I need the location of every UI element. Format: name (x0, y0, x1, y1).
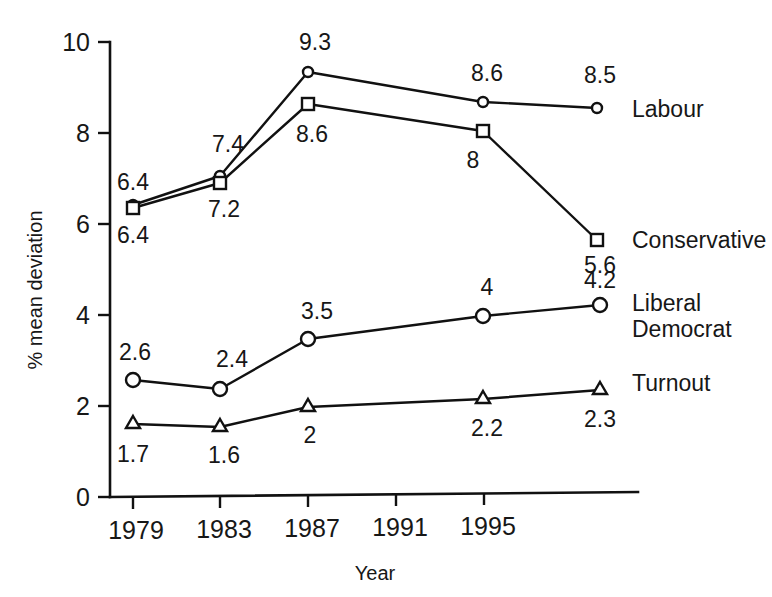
chart-container: 10 8 6 4 2 0 1979 1983 1987 1991 1995 Ye… (0, 0, 772, 597)
series-label-turnout: Turnout (632, 370, 711, 396)
conservative-marker-1979 (127, 202, 139, 214)
y-tick-labels: 10 8 6 4 2 0 (62, 28, 90, 511)
turnout-value-1979: 1.7 (117, 441, 149, 467)
labour-value-1997: 8.5 (584, 62, 616, 88)
conservative-value-1979: 6.4 (117, 222, 149, 248)
conservative-value-1987: 8.6 (296, 121, 328, 147)
x-tick-label-1979: 1979 (108, 516, 164, 544)
series-label-liberal-democrat-line1: Liberal (632, 290, 701, 316)
series-liberal-democrat: 2.6 2.4 3.5 4 4.2 (119, 267, 616, 396)
liberal-democrat-line (133, 305, 600, 389)
series-label-labour: Labour (632, 96, 704, 122)
liberal-democrat-value-1997: 4.2 (584, 267, 616, 293)
labour-value-1979: 6.4 (117, 169, 149, 195)
turnout-line (133, 390, 600, 427)
series-label-conservative: Conservative (632, 227, 766, 253)
liberal-democrat-value-1991: 4 (481, 274, 494, 300)
liberal-democrat-marker-1991 (476, 309, 490, 323)
turnout-marker-1991 (476, 391, 490, 403)
liberal-democrat-marker-1997 (593, 298, 607, 312)
x-tick-label-1983: 1983 (196, 515, 252, 543)
series-labels-group: Labour Conservative Liberal Democrat Tur… (632, 96, 766, 396)
labour-marker-1991 (478, 97, 488, 107)
x-axis-line (110, 492, 638, 497)
labour-value-1987: 9.3 (299, 29, 331, 55)
conservative-value-1983: 7.2 (208, 196, 240, 222)
turnout-value-1991: 2.2 (471, 415, 503, 441)
conservative-marker-1997 (591, 234, 603, 246)
turnout-marker-1979 (126, 416, 140, 428)
turnout-value-1987: 2 (304, 422, 317, 448)
x-tick-label-1987: 1987 (284, 514, 340, 542)
labour-value-1991: 8.6 (471, 60, 503, 86)
labour-marker-1987 (303, 67, 313, 77)
y-tick-label-0: 0 (76, 483, 90, 511)
x-tick-label-1991: 1991 (372, 513, 428, 541)
turnout-marker-1997 (593, 382, 607, 394)
conservative-line (133, 104, 597, 240)
conservative-marker-1991 (477, 125, 489, 137)
y-tick-label-10: 10 (62, 28, 90, 56)
liberal-democrat-marker-1979 (126, 373, 140, 387)
liberal-democrat-value-1987: 3.5 (301, 298, 333, 324)
conservative-value-1991: 8 (467, 147, 480, 173)
turnout-value-1997: 2.3 (584, 406, 616, 432)
conservative-marker-1987 (302, 98, 314, 110)
y-tick-label-6: 6 (76, 210, 90, 238)
series-conservative: 6.4 7.2 8.6 8 5.6 (117, 98, 616, 278)
y-tick-label-2: 2 (76, 392, 90, 420)
series-label-liberal-democrat-line2: Democrat (632, 316, 732, 342)
liberal-democrat-marker-1987 (301, 332, 315, 346)
x-tick-labels: 1979 1983 1987 1991 1995 (108, 512, 516, 544)
series-labour: 6.4 7.4 9.3 8.6 8.5 (117, 29, 616, 210)
labour-marker-1997 (592, 103, 602, 113)
x-axis-title: Year (355, 562, 396, 584)
y-tick-label-8: 8 (76, 119, 90, 147)
y-axis-title: % mean deviation (24, 211, 46, 370)
labour-value-1983: 7.4 (212, 131, 244, 157)
liberal-democrat-marker-1983 (213, 382, 227, 396)
x-tick-label-1995: 1995 (460, 512, 516, 540)
labour-line (133, 72, 597, 205)
line-chart-plot: 10 8 6 4 2 0 1979 1983 1987 1991 1995 Ye… (0, 0, 772, 597)
turnout-marker-1987 (301, 399, 315, 411)
y-tick-label-4: 4 (76, 301, 90, 329)
liberal-democrat-value-1983: 2.4 (216, 346, 248, 372)
liberal-democrat-value-1979: 2.6 (119, 339, 151, 365)
series-turnout: 1.7 1.6 2 2.2 2.3 (117, 382, 616, 468)
turnout-value-1983: 1.6 (208, 442, 240, 468)
conservative-marker-1983 (214, 177, 226, 189)
